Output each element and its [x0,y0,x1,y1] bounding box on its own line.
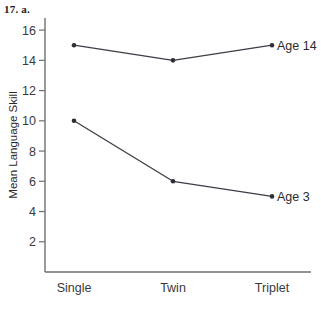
y-tick-label: 10 [22,114,36,128]
x-axis-group: SingleTwinTriplet [45,272,311,295]
data-point-marker [171,179,176,184]
y-tick-group: 246810121416 [22,24,45,250]
data-point-marker [171,58,176,63]
data-point-marker [270,43,275,48]
y-axis-group: 246810121416 Mean Language Skill [7,18,45,272]
y-tick-label: 4 [29,205,36,219]
series-line [74,121,272,197]
series-label: Age 3 [277,190,310,204]
y-tick-label: 2 [29,235,36,249]
chart-page: 17. a. 246810121416 Mean Language Skill … [0,0,321,310]
series-group: Age 14Age 3 [72,39,317,204]
x-tick-label: Triplet [255,281,290,295]
x-tick-label: Twin [160,281,186,295]
x-tick-label: Single [57,281,92,295]
y-tick-label: 6 [29,175,36,189]
y-tick-label: 12 [22,84,36,98]
series-label: Age 14 [277,39,317,53]
line-chart: 246810121416 Mean Language Skill SingleT… [0,0,321,310]
y-axis-title: Mean Language Skill [7,91,19,198]
y-tick-label: 16 [22,24,36,38]
data-point-marker [72,119,77,124]
y-tick-label: 8 [29,145,36,159]
data-point-marker [72,43,77,48]
data-point-marker [270,194,275,199]
x-tick-group: SingleTwinTriplet [57,281,290,295]
y-tick-label: 14 [22,54,36,68]
